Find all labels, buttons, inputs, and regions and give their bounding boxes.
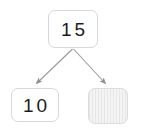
- tree-diagram-canvas: 15 10: [0, 0, 141, 129]
- edge-root-to-left: [37, 49, 73, 84]
- edge-root-to-right: [74, 49, 106, 84]
- tree-node-left-child[interactable]: 10: [11, 88, 59, 122]
- tree-node-root[interactable]: 15: [48, 10, 98, 48]
- tree-node-root-label: 15: [58, 20, 88, 39]
- tree-node-right-child-empty[interactable]: [88, 88, 128, 124]
- tree-node-left-child-label: 10: [20, 96, 50, 115]
